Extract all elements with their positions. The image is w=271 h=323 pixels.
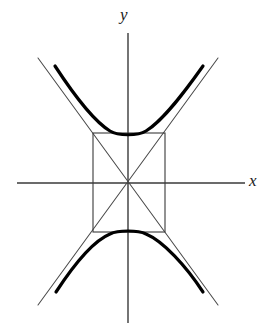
hyperbola-lower-branch [56, 231, 203, 292]
x-axis-label: x [249, 172, 257, 189]
hyperbola-upper-branch [55, 66, 203, 135]
hyperbola-figure: y x [0, 0, 271, 323]
y-axis-label: y [120, 6, 128, 23]
figure-canvas [0, 0, 271, 323]
